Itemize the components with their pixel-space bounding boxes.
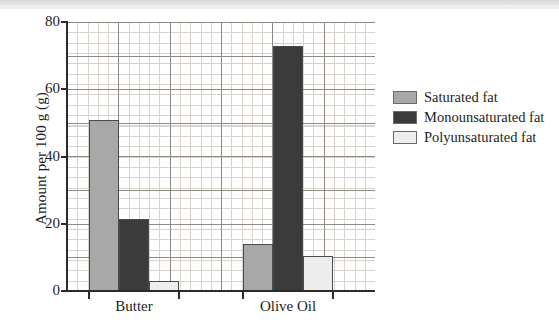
bar-butter-monounsaturated-fat [119, 219, 149, 291]
bar-butter-saturated-fat [89, 120, 119, 291]
legend-item-polyunsaturated-fat: Polyunsaturated fat [393, 128, 559, 146]
plot-area [67, 22, 375, 291]
y-tick-label: 0 [26, 282, 60, 299]
bar-olive-oil-monounsaturated-fat [273, 46, 303, 291]
bar-olive-oil-polyunsaturated-fat [303, 256, 333, 291]
x-category-label-olive-oil: Olive Oil [203, 298, 373, 315]
legend-swatch-icon [393, 131, 417, 144]
y-axis-ticks: 020406080 [0, 0, 60, 323]
y-tick-label: 40 [26, 148, 60, 165]
legend-item-monounsaturated-fat: Monounsaturated fat [393, 108, 559, 126]
chart-legend: Saturated fatMonounsaturated fatPolyunsa… [393, 88, 559, 148]
y-tick-label: 60 [26, 80, 60, 97]
legend-label: Polyunsaturated fat [424, 129, 536, 146]
x-category-label-butter: Butter [49, 298, 219, 315]
bar-chart-figure: Amount per 100 g (g) 020406080 ButterOli… [0, 0, 559, 323]
y-tick-label: 20 [26, 215, 60, 232]
legend-label: Saturated fat [424, 89, 498, 106]
legend-swatch-icon [393, 91, 417, 104]
y-tick-label: 80 [26, 13, 60, 30]
bar-olive-oil-saturated-fat [243, 244, 273, 291]
legend-swatch-icon [393, 111, 417, 124]
legend-label: Monounsaturated fat [424, 109, 544, 126]
y-axis-line [66, 21, 68, 292]
legend-item-saturated-fat: Saturated fat [393, 88, 559, 106]
x-axis-line [66, 290, 375, 292]
